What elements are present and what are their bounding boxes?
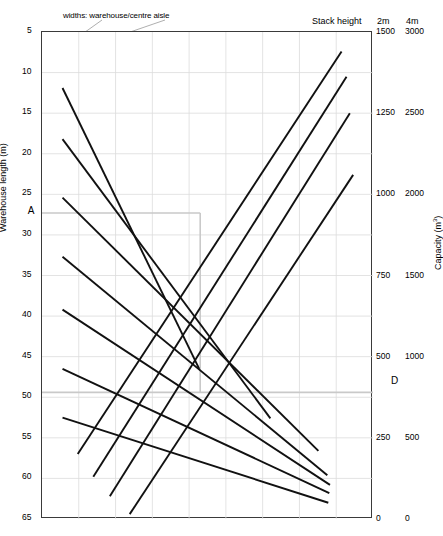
stack-height-col-2m: 2m (377, 16, 390, 26)
marker-A: A (28, 206, 35, 216)
y-tick-right-4m-2500: 2500 (405, 108, 424, 117)
y-tick-left-65: 65 (22, 513, 31, 522)
line-width-20-2 (63, 88, 200, 369)
y-tick-right-2m-1500: 1500 (376, 27, 395, 36)
stack-height-header-label: Stack height (312, 16, 362, 26)
y-tick-right-2m-750: 750 (376, 271, 390, 280)
y-tick-right-4m-500: 500 (405, 433, 419, 442)
y-tick-left-45: 45 (22, 351, 31, 360)
y-tick-left-60: 60 (22, 472, 31, 481)
line-store-mixed-goods-store (110, 113, 350, 496)
data-lines (42, 32, 373, 519)
y-tick-right-4m-1500: 1500 (405, 271, 424, 280)
y-tick-left-35: 35 (22, 270, 31, 279)
y-tick-right-2m-1000: 1000 (376, 189, 395, 198)
y-tick-left-15: 15 (22, 107, 31, 116)
line-store-medium-foodstore (93, 77, 346, 477)
y-axis-title-right: Capacity (m3) (432, 140, 443, 270)
y-tick-right-2m-0: 0 (376, 514, 381, 523)
y-tick-left-20: 20 (22, 148, 31, 157)
y-tick-left-5: 5 (27, 26, 32, 35)
y-axis-title-left: Warehouse length (m) (0, 112, 8, 232)
y-tick-right-4m-0: 0 (405, 514, 410, 523)
y-tick-right-2m-500: 500 (376, 352, 390, 361)
y-tick-left-55: 55 (22, 432, 31, 441)
marker-D: D (391, 376, 398, 386)
y-tick-left-25: 25 (22, 188, 31, 197)
y-tick-right-4m-2000: 2000 (405, 189, 424, 198)
y-tick-left-40: 40 (22, 310, 31, 319)
stack-height-col-4m: 4m (406, 16, 419, 26)
y-tick-left-30: 30 (22, 229, 31, 238)
plot-area (41, 31, 372, 518)
line-width-10-0 (63, 310, 330, 485)
line-store-regional-warehouse (130, 175, 353, 514)
line-width-18-2 (63, 139, 271, 418)
y-tick-left-10: 10 (22, 67, 31, 76)
y-tick-right-4m-1000: 1000 (405, 352, 424, 361)
y-axis-title-right-text: Capacity (m (433, 222, 443, 270)
y-tick-right-4m-3000: 3000 (405, 27, 424, 36)
y-tick-right-2m-250: 250 (376, 433, 390, 442)
y-tick-right-2m-1250: 1250 (376, 108, 395, 117)
y-tick-left-50: 50 (22, 391, 31, 400)
line-width-14-2 (63, 257, 328, 475)
